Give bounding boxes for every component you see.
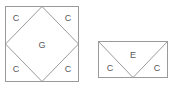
figure-rectangle-with-v-division: E C C — [99, 42, 168, 78]
region-label-corner-bottom-left: C — [13, 64, 20, 74]
geometry-diagram: G C C C C E C C — [0, 0, 177, 91]
region-label-center-diamond: G — [38, 40, 45, 50]
region-label-center-wedge: E — [130, 50, 136, 60]
figure-square-with-inscribed-diamond: G C C C C — [6, 7, 79, 82]
region-label-side-left: C — [107, 63, 114, 73]
region-label-corner-top-left: C — [13, 13, 20, 23]
region-label-corner-top-right: C — [65, 13, 72, 23]
region-label-side-right: C — [154, 63, 161, 73]
region-label-corner-bottom-right: C — [65, 64, 72, 74]
